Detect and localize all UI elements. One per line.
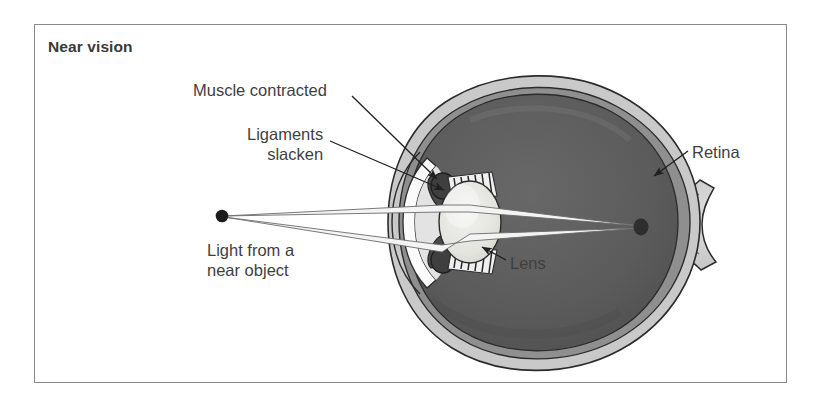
label-light-from-near-object: Light from a near object [207,240,294,280]
near-vision-figure: Near vision Muscle contracted Ligaments … [0,0,823,408]
label-light-line1: Light from a [207,240,294,260]
label-ligaments-slacken: Ligaments slacken [247,124,323,164]
panel-title: Near vision [48,38,133,56]
label-retina: Retina [692,142,740,162]
figure-frame [34,24,787,383]
label-ligaments-line2: slacken [247,144,323,164]
label-light-line2: near object [207,260,294,280]
label-muscle-contracted: Muscle contracted [193,80,327,100]
label-lens: Lens [510,253,546,273]
label-ligaments-line1: Ligaments [247,124,323,144]
